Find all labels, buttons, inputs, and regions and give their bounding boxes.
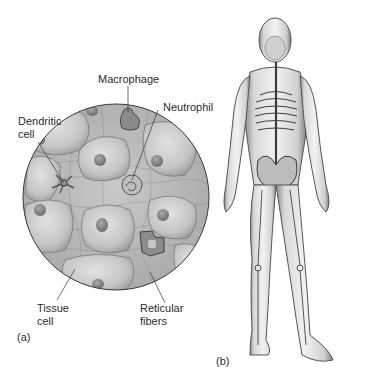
left-leg bbox=[250, 185, 276, 355]
label-tissue-line2: cell bbox=[37, 315, 54, 327]
label-dendritic-line2: cell bbox=[18, 128, 35, 140]
neutrophil-cell bbox=[122, 175, 142, 195]
illustration bbox=[0, 0, 370, 381]
label-reticular-line1: Reticular bbox=[140, 302, 183, 314]
right-leg bbox=[276, 185, 333, 361]
label-macrophage: Macrophage bbox=[98, 73, 159, 85]
label-dendritic-line1: Dendritic bbox=[18, 115, 61, 127]
label-tissue-line1: Tissue bbox=[37, 302, 69, 314]
label-reticular-line2: fibers bbox=[140, 315, 167, 327]
panel-label-b: (b) bbox=[216, 355, 229, 367]
human-body-figure bbox=[224, 18, 333, 361]
panel-label-a: (a) bbox=[17, 331, 30, 343]
label-neutrophil: Neutrophil bbox=[163, 101, 213, 113]
left-arm bbox=[224, 76, 250, 212]
skull bbox=[265, 36, 285, 60]
tissue-magnification-circle bbox=[20, 100, 215, 300]
